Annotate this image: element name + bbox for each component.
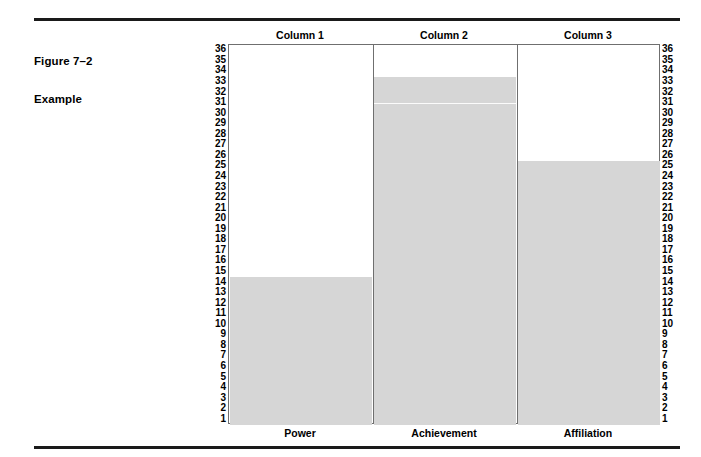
top-rule <box>34 18 680 21</box>
y-axis-tick-right: 2 <box>662 403 692 413</box>
y-axis-tick-left: 6 <box>196 361 226 371</box>
category-label: Affiliation <box>516 427 660 439</box>
y-axis-tick-right: 9 <box>662 329 692 339</box>
y-axis-tick-right: 5 <box>662 372 692 382</box>
y-axis-tick-left: 11 <box>196 308 226 318</box>
y-axis-tick-right: 34 <box>662 65 692 75</box>
y-axis-tick-right: 13 <box>662 287 692 297</box>
y-axis-right: 3635343332313029282726252423222120191817… <box>662 44 692 424</box>
y-axis-tick-right: 7 <box>662 350 692 360</box>
y-axis-tick-left: 3 <box>196 393 226 403</box>
y-axis-tick-left: 36 <box>196 44 226 54</box>
y-axis-tick-right: 15 <box>662 266 692 276</box>
y-axis-tick-left: 21 <box>196 203 226 213</box>
column-header: Column 2 <box>372 29 516 41</box>
y-axis-tick-right: 14 <box>662 277 692 287</box>
y-axis-tick-left: 1 <box>196 414 226 424</box>
y-axis-tick-left: 2 <box>196 403 226 413</box>
y-axis-tick-right: 3 <box>662 393 692 403</box>
y-axis-tick-right: 33 <box>662 76 692 86</box>
y-axis-tick-right: 1 <box>662 414 692 424</box>
bar-scan-artifact <box>374 103 516 104</box>
y-axis-tick-left: 34 <box>196 65 226 75</box>
category-label-row: PowerAchievementAffiliation <box>228 427 660 443</box>
y-axis-tick-right: 24 <box>662 171 692 181</box>
y-axis-tick-left: 35 <box>196 55 226 65</box>
y-axis-tick-left: 31 <box>196 97 226 107</box>
y-axis-left: 3635343332313029282726252423222120191817… <box>196 44 226 424</box>
y-axis-tick-right: 12 <box>662 298 692 308</box>
y-axis-tick-left: 17 <box>196 245 226 255</box>
y-axis-tick-left: 27 <box>196 139 226 149</box>
y-axis-tick-left: 33 <box>196 76 226 86</box>
y-axis-tick-left: 32 <box>196 87 226 97</box>
y-axis-tick-right: 32 <box>662 87 692 97</box>
y-axis-tick-left: 23 <box>196 182 226 192</box>
figure-label: Figure 7–2 <box>34 55 93 68</box>
y-axis-tick-right: 20 <box>662 213 692 223</box>
bar <box>230 277 372 425</box>
column-divider <box>373 45 374 423</box>
y-axis-tick-left: 15 <box>196 266 226 276</box>
bar <box>518 161 660 425</box>
y-axis-tick-left: 5 <box>196 372 226 382</box>
y-axis-tick-right: 35 <box>662 55 692 65</box>
y-axis-tick-right: 36 <box>662 44 692 54</box>
category-label: Power <box>228 427 372 439</box>
y-axis-tick-right: 10 <box>662 319 692 329</box>
y-axis-tick-right: 4 <box>662 382 692 392</box>
y-axis-tick-left: 7 <box>196 350 226 360</box>
column-divider <box>517 45 518 423</box>
y-axis-tick-right: 31 <box>662 97 692 107</box>
column-header-row: Column 1Column 2Column 3 <box>228 29 660 43</box>
y-axis-tick-left: 22 <box>196 192 226 202</box>
chart-plot-area <box>228 44 660 424</box>
y-axis-tick-left: 4 <box>196 382 226 392</box>
figure-page: Figure 7–2 Example Column 1Column 2Colum… <box>0 0 701 457</box>
y-axis-tick-left: 20 <box>196 213 226 223</box>
y-axis-tick-right: 28 <box>662 129 692 139</box>
y-axis-tick-left: 25 <box>196 160 226 170</box>
y-axis-tick-right: 16 <box>662 255 692 265</box>
y-axis-tick-left: 12 <box>196 298 226 308</box>
bar <box>374 77 516 425</box>
y-axis-tick-left: 14 <box>196 277 226 287</box>
y-axis-tick-right: 26 <box>662 150 692 160</box>
category-label: Achievement <box>372 427 516 439</box>
y-axis-tick-right: 30 <box>662 108 692 118</box>
y-axis-tick-right: 29 <box>662 118 692 128</box>
y-axis-tick-right: 8 <box>662 340 692 350</box>
y-axis-tick-left: 26 <box>196 150 226 160</box>
y-axis-tick-left: 18 <box>196 234 226 244</box>
y-axis-tick-right: 18 <box>662 234 692 244</box>
figure-subtitle: Example <box>34 93 93 106</box>
y-axis-tick-left: 24 <box>196 171 226 181</box>
column-header: Column 3 <box>516 29 660 41</box>
y-axis-tick-left: 29 <box>196 118 226 128</box>
y-axis-tick-right: 11 <box>662 308 692 318</box>
y-axis-tick-left: 16 <box>196 255 226 265</box>
y-axis-tick-left: 30 <box>196 108 226 118</box>
bottom-rule <box>34 446 680 449</box>
figure-caption: Figure 7–2 Example <box>34 30 93 131</box>
y-axis-tick-right: 6 <box>662 361 692 371</box>
column-header: Column 1 <box>228 29 372 41</box>
y-axis-tick-right: 23 <box>662 182 692 192</box>
y-axis-tick-left: 9 <box>196 329 226 339</box>
y-axis-tick-right: 22 <box>662 192 692 202</box>
y-axis-tick-left: 8 <box>196 340 226 350</box>
y-axis-tick-right: 21 <box>662 203 692 213</box>
y-axis-tick-right: 19 <box>662 224 692 234</box>
y-axis-tick-right: 27 <box>662 139 692 149</box>
y-axis-tick-left: 28 <box>196 129 226 139</box>
y-axis-tick-left: 13 <box>196 287 226 297</box>
y-axis-tick-left: 10 <box>196 319 226 329</box>
y-axis-tick-right: 17 <box>662 245 692 255</box>
y-axis-tick-right: 25 <box>662 160 692 170</box>
y-axis-tick-left: 19 <box>196 224 226 234</box>
